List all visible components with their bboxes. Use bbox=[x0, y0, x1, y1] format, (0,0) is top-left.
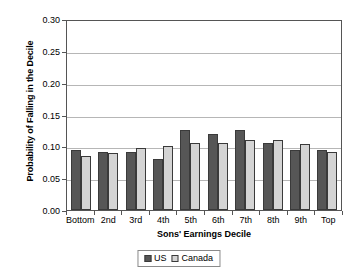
y-axis-tick-label: 0.20 bbox=[24, 79, 60, 89]
bar-group bbox=[231, 21, 258, 210]
legend-label: US bbox=[154, 253, 167, 263]
y-axis-tick-label: 0.00 bbox=[24, 206, 60, 216]
bar-group bbox=[94, 21, 121, 210]
bar-series-container bbox=[67, 21, 341, 210]
legend-swatch-us bbox=[144, 255, 151, 262]
y-axis-tick-label: 0.15 bbox=[24, 111, 60, 121]
bar-us bbox=[71, 150, 81, 210]
bar-canada bbox=[108, 153, 118, 210]
bar-chart: Probability of Falling in the Decile 0.0… bbox=[0, 0, 357, 279]
x-axis-tick-label: 5th bbox=[177, 215, 205, 225]
x-axis-tick-label: 9th bbox=[287, 215, 315, 225]
x-axis-tick-label: 7th bbox=[232, 215, 260, 225]
bar-canada bbox=[190, 143, 200, 210]
y-axis-tick-label: 0.05 bbox=[24, 174, 60, 184]
bar-group bbox=[259, 21, 286, 210]
x-axis-tick-label: 8th bbox=[260, 215, 288, 225]
x-axis-tick-label: 6th bbox=[205, 215, 233, 225]
x-axis-tick-label: 2nd bbox=[95, 215, 123, 225]
bar-us bbox=[208, 134, 218, 210]
y-axis-tick-label: 0.10 bbox=[24, 142, 60, 152]
bar-group bbox=[122, 21, 149, 210]
bar-group bbox=[149, 21, 176, 210]
x-axis-title: Sons' Earnings Decile bbox=[66, 229, 342, 239]
bar-canada bbox=[245, 140, 255, 210]
bar-canada bbox=[136, 148, 146, 210]
y-axis-tick-label: 0.30 bbox=[24, 15, 60, 25]
x-axis-tick bbox=[342, 211, 343, 215]
bar-canada bbox=[300, 144, 310, 210]
x-axis-tick-label: 3rd bbox=[122, 215, 150, 225]
bar-us bbox=[290, 150, 300, 210]
bar-canada bbox=[273, 140, 283, 210]
legend-swatch-canada bbox=[171, 255, 178, 262]
bar-us bbox=[126, 152, 136, 210]
bar-group bbox=[67, 21, 94, 210]
y-axis-tick-label: 0.25 bbox=[24, 47, 60, 57]
bar-us bbox=[98, 152, 108, 210]
bar-us bbox=[235, 130, 245, 210]
chart-legend: USCanada bbox=[137, 250, 220, 267]
bar-us bbox=[180, 130, 190, 210]
bar-us bbox=[153, 159, 163, 210]
bar-canada bbox=[218, 143, 228, 210]
x-axis-tick-labels: Bottom2nd3rd4th5th6th7th8th9thTop bbox=[66, 215, 342, 225]
legend-label: Canada bbox=[181, 253, 213, 263]
bar-us bbox=[317, 150, 327, 210]
bar-canada bbox=[163, 146, 173, 210]
bar-group bbox=[177, 21, 204, 210]
bar-us bbox=[263, 143, 273, 210]
x-axis-tick-label: Bottom bbox=[66, 215, 95, 225]
legend-item: Canada bbox=[171, 253, 213, 263]
x-axis-tick-label: 4th bbox=[150, 215, 178, 225]
bar-group bbox=[314, 21, 341, 210]
plot-area bbox=[66, 20, 342, 211]
x-axis-tick-label: Top bbox=[315, 215, 343, 225]
bar-canada bbox=[81, 156, 91, 210]
bar-group bbox=[286, 21, 313, 210]
legend-item: US bbox=[144, 253, 167, 263]
bar-group bbox=[204, 21, 231, 210]
bar-canada bbox=[327, 152, 337, 210]
